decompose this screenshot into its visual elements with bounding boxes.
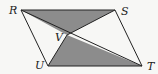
- parallelogram-diagram: R S T U V: [0, 0, 158, 74]
- label-u: U: [35, 59, 45, 72]
- label-r: R: [8, 4, 17, 17]
- label-v: V: [55, 31, 64, 44]
- label-s: S: [121, 5, 129, 18]
- label-t: T: [147, 60, 156, 73]
